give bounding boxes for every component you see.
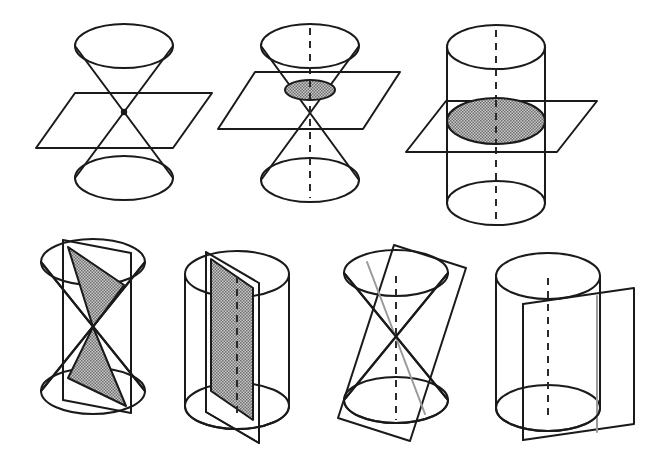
figure-root: Conic sections and cylindrical sections [0, 0, 646, 469]
panel-1-section-point [121, 109, 127, 115]
panel-7-tangent-plane [523, 288, 634, 440]
panel-5-section-rectangle [211, 259, 253, 420]
conic-sections-figure: Conic sections and cylindrical sections [0, 0, 646, 469]
